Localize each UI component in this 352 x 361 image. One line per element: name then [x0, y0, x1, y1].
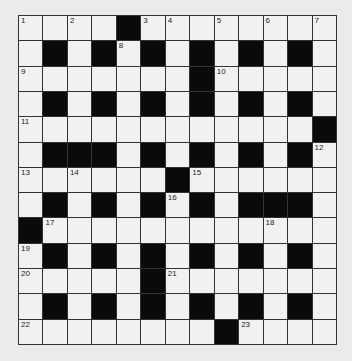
- grid-cell[interactable]: [313, 320, 336, 344]
- grid-cell[interactable]: [166, 117, 189, 141]
- grid-cell[interactable]: 19: [19, 244, 42, 268]
- grid-cell[interactable]: [288, 269, 311, 293]
- grid-cell[interactable]: [92, 117, 115, 141]
- grid-cell[interactable]: [68, 294, 91, 318]
- grid-cell[interactable]: [68, 41, 91, 65]
- grid-cell[interactable]: [166, 41, 189, 65]
- grid-cell[interactable]: [117, 294, 140, 318]
- grid-cell[interactable]: [239, 16, 262, 40]
- grid-cell[interactable]: [215, 143, 238, 167]
- grid-cell[interactable]: [264, 320, 287, 344]
- grid-cell[interactable]: [68, 193, 91, 217]
- grid-cell[interactable]: 10: [215, 67, 238, 91]
- grid-cell[interactable]: [215, 168, 238, 192]
- grid-cell[interactable]: 14: [68, 168, 91, 192]
- grid-cell[interactable]: [190, 16, 213, 40]
- grid-cell[interactable]: [43, 320, 66, 344]
- grid-cell[interactable]: 9: [19, 67, 42, 91]
- grid-cell[interactable]: [215, 269, 238, 293]
- grid-cell[interactable]: [166, 294, 189, 318]
- grid-cell[interactable]: [215, 294, 238, 318]
- grid-cell[interactable]: [117, 168, 140, 192]
- grid-cell[interactable]: [117, 218, 140, 242]
- grid-cell[interactable]: 22: [19, 320, 42, 344]
- grid-cell[interactable]: [239, 269, 262, 293]
- grid-cell[interactable]: [239, 117, 262, 141]
- grid-cell[interactable]: [19, 193, 42, 217]
- grid-cell[interactable]: [215, 117, 238, 141]
- grid-cell[interactable]: [264, 117, 287, 141]
- grid-cell[interactable]: 2: [68, 16, 91, 40]
- grid-cell[interactable]: [313, 294, 336, 318]
- grid-cell[interactable]: 20: [19, 269, 42, 293]
- grid-cell[interactable]: [43, 67, 66, 91]
- grid-cell[interactable]: [264, 244, 287, 268]
- grid-cell[interactable]: [313, 218, 336, 242]
- grid-cell[interactable]: 6: [264, 16, 287, 40]
- grid-cell[interactable]: [92, 16, 115, 40]
- grid-cell[interactable]: [166, 143, 189, 167]
- grid-cell[interactable]: [68, 320, 91, 344]
- grid-cell[interactable]: 15: [190, 168, 213, 192]
- grid-cell[interactable]: [288, 320, 311, 344]
- grid-cell[interactable]: [141, 218, 164, 242]
- grid-cell[interactable]: [68, 117, 91, 141]
- grid-cell[interactable]: [190, 218, 213, 242]
- grid-cell[interactable]: [166, 320, 189, 344]
- grid-cell[interactable]: [19, 143, 42, 167]
- grid-cell[interactable]: 16: [166, 193, 189, 217]
- grid-cell[interactable]: [215, 218, 238, 242]
- grid-cell[interactable]: [68, 92, 91, 116]
- grid-cell[interactable]: [117, 67, 140, 91]
- grid-cell[interactable]: [313, 244, 336, 268]
- grid-cell[interactable]: [141, 168, 164, 192]
- grid-cell[interactable]: [190, 320, 213, 344]
- grid-cell[interactable]: [190, 117, 213, 141]
- grid-cell[interactable]: [43, 269, 66, 293]
- grid-cell[interactable]: [19, 41, 42, 65]
- grid-cell[interactable]: [117, 320, 140, 344]
- grid-cell[interactable]: [313, 269, 336, 293]
- grid-cell[interactable]: 23: [239, 320, 262, 344]
- grid-cell[interactable]: [190, 269, 213, 293]
- grid-cell[interactable]: [117, 193, 140, 217]
- grid-cell[interactable]: 4: [166, 16, 189, 40]
- grid-cell[interactable]: [92, 67, 115, 91]
- grid-cell[interactable]: 18: [264, 218, 287, 242]
- grid-cell[interactable]: [92, 320, 115, 344]
- grid-cell[interactable]: [313, 193, 336, 217]
- grid-cell[interactable]: 11: [19, 117, 42, 141]
- grid-cell[interactable]: [313, 168, 336, 192]
- grid-cell[interactable]: [117, 143, 140, 167]
- grid-cell[interactable]: [117, 269, 140, 293]
- grid-cell[interactable]: [288, 218, 311, 242]
- grid-cell[interactable]: [215, 193, 238, 217]
- grid-cell[interactable]: [92, 269, 115, 293]
- grid-cell[interactable]: [264, 143, 287, 167]
- grid-cell[interactable]: 17: [43, 218, 66, 242]
- grid-cell[interactable]: [166, 244, 189, 268]
- grid-cell[interactable]: [141, 117, 164, 141]
- grid-cell[interactable]: [19, 294, 42, 318]
- grid-cell[interactable]: 5: [215, 16, 238, 40]
- grid-cell[interactable]: [288, 16, 311, 40]
- grid-cell[interactable]: [288, 168, 311, 192]
- grid-cell[interactable]: [43, 168, 66, 192]
- grid-cell[interactable]: [264, 294, 287, 318]
- grid-cell[interactable]: [19, 92, 42, 116]
- grid-cell[interactable]: [141, 67, 164, 91]
- grid-cell[interactable]: [68, 67, 91, 91]
- grid-cell[interactable]: 3: [141, 16, 164, 40]
- grid-cell[interactable]: [215, 244, 238, 268]
- grid-cell[interactable]: [264, 67, 287, 91]
- grid-cell[interactable]: [141, 320, 164, 344]
- grid-cell[interactable]: [239, 218, 262, 242]
- grid-cell[interactable]: [239, 168, 262, 192]
- grid-cell[interactable]: [288, 117, 311, 141]
- grid-cell[interactable]: [43, 16, 66, 40]
- grid-cell[interactable]: [68, 244, 91, 268]
- grid-cell[interactable]: [68, 218, 91, 242]
- grid-cell[interactable]: [264, 41, 287, 65]
- grid-cell[interactable]: [117, 244, 140, 268]
- grid-cell[interactable]: [288, 67, 311, 91]
